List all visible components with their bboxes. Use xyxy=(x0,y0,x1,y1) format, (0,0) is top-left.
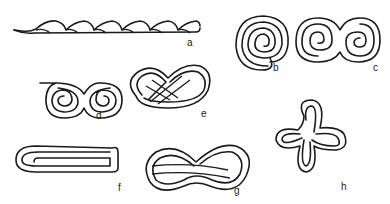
label-c: c xyxy=(373,62,378,73)
diagram-canvas xyxy=(0,0,390,204)
label-h: h xyxy=(341,181,347,192)
label-a: a xyxy=(187,37,193,48)
figure-a-twisted-strand xyxy=(14,21,200,33)
figure-c-double-spiral xyxy=(296,18,380,62)
figure-e-pretzel xyxy=(130,65,209,108)
label-g: g xyxy=(234,185,240,196)
figure-g-figure-eight xyxy=(146,145,249,190)
label-e: e xyxy=(201,108,207,119)
figure-h-four-lobed-knot xyxy=(276,100,346,172)
figure-d-volute xyxy=(40,83,122,118)
label-f: f xyxy=(118,182,121,193)
label-d: d xyxy=(96,110,102,121)
figure-f-folded-band xyxy=(16,146,118,172)
label-b: b xyxy=(273,62,279,73)
figure-b-spiral xyxy=(236,16,288,70)
